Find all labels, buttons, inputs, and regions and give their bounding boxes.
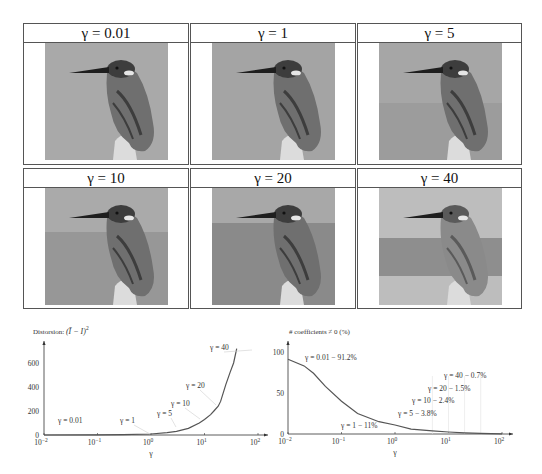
panel-gamma-0-01: γ = 0.01 xyxy=(23,23,189,165)
kingfisher-illustration xyxy=(379,43,502,160)
svg-text:γ = 1 − 11%: γ = 1 − 11% xyxy=(340,421,378,430)
svg-text:γ: γ xyxy=(392,448,397,457)
svg-text:102: 102 xyxy=(494,436,505,446)
coefficients-chart: 05010010−210−1100101102γ# coefficients ≠… xyxy=(271,325,542,474)
kingfisher-image xyxy=(212,188,335,305)
kingfisher-image xyxy=(379,43,502,160)
panel-title: γ = 40 xyxy=(358,169,521,188)
coefficients-axes: 05010010−210−1100101102γ# coefficients ≠… xyxy=(273,328,513,457)
svg-text:101: 101 xyxy=(440,436,451,446)
svg-text:10−1: 10−1 xyxy=(88,437,102,447)
panel-title: γ = 1 xyxy=(191,24,355,43)
svg-text:50: 50 xyxy=(277,389,285,398)
panel-gamma-1: γ = 1 xyxy=(190,23,356,165)
kingfisher-illustration xyxy=(45,43,168,160)
panel-gamma-5: γ = 5 xyxy=(357,23,522,165)
svg-text:102: 102 xyxy=(250,437,261,447)
distortion-axes: 020040060010−210−1100101102γDistorsion: … xyxy=(28,325,268,458)
svg-text:γ = 40: γ = 40 xyxy=(209,343,229,352)
svg-text:γ: γ xyxy=(148,449,153,458)
image-grid: γ = 0.01 γ = 1 γ = 5 γ = 10 γ = 20 γ = 4… xyxy=(23,23,522,309)
panel-title: γ = 5 xyxy=(358,24,521,43)
svg-text:200: 200 xyxy=(28,407,40,416)
svg-text:γ = 0.01: γ = 0.01 xyxy=(57,416,83,425)
panel-gamma-10: γ = 10 xyxy=(23,168,189,309)
svg-text:100: 100 xyxy=(387,436,398,446)
svg-text:γ = 10: γ = 10 xyxy=(170,399,190,408)
kingfisher-illustration xyxy=(379,188,502,305)
svg-text:10−1: 10−1 xyxy=(332,436,346,446)
svg-text:Distorsion: (Ī − I)2: Distorsion: (Ī − I)2 xyxy=(33,325,89,336)
svg-text:# coefficients ≠ 0 (%): # coefficients ≠ 0 (%) xyxy=(289,328,351,336)
svg-text:γ = 20: γ = 20 xyxy=(185,381,205,390)
kingfisher-illustration xyxy=(212,43,335,160)
svg-text:100: 100 xyxy=(143,437,154,447)
svg-text:600: 600 xyxy=(28,359,40,368)
kingfisher-illustration xyxy=(212,188,335,305)
kingfisher-illustration xyxy=(45,188,168,305)
svg-text:400: 400 xyxy=(28,383,40,392)
coefficients-plot: 05010010−210−1100101102γ# coefficients ≠… xyxy=(271,325,542,474)
svg-text:10−2: 10−2 xyxy=(34,437,48,447)
svg-text:γ = 20 − 1.5%: γ = 20 − 1.5% xyxy=(427,384,470,393)
svg-text:γ = 1: γ = 1 xyxy=(119,416,135,425)
svg-text:γ = 0.01 − 91.2%: γ = 0.01 − 91.2% xyxy=(304,353,357,362)
distortion-chart: 020040060010−210−1100101102γDistorsion: … xyxy=(0,325,271,474)
kingfisher-image xyxy=(45,188,168,305)
kingfisher-image xyxy=(379,188,502,305)
svg-text:10−2: 10−2 xyxy=(278,436,292,446)
panel-title: γ = 20 xyxy=(191,169,355,188)
panel-title: γ = 0.01 xyxy=(24,24,188,43)
svg-text:γ = 5 − 3.8%: γ = 5 − 3.8% xyxy=(397,409,437,418)
svg-text:γ = 5: γ = 5 xyxy=(156,409,172,418)
panel-gamma-20: γ = 20 xyxy=(190,168,356,309)
svg-text:101: 101 xyxy=(196,437,207,447)
panel-gamma-40: γ = 40 xyxy=(357,168,522,309)
panel-title: γ = 10 xyxy=(24,169,188,188)
distortion-plot: 020040060010−210−1100101102γDistorsion: … xyxy=(0,325,271,474)
svg-text:100: 100 xyxy=(273,348,285,357)
kingfisher-image xyxy=(45,43,168,160)
svg-text:γ = 10 − 2.4%: γ = 10 − 2.4% xyxy=(411,396,454,405)
kingfisher-image xyxy=(212,43,335,160)
svg-text:γ = 40 − 0.7%: γ = 40 − 0.7% xyxy=(443,371,486,380)
